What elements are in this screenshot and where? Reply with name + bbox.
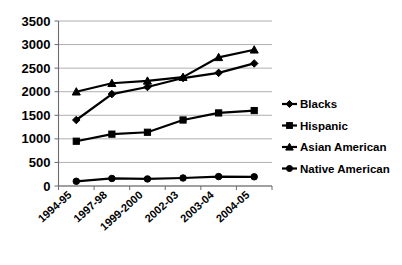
data-point-marker (180, 175, 187, 182)
data-point-marker (73, 178, 80, 185)
data-point-marker (144, 129, 150, 135)
legend-item-label: Hispanic (300, 120, 349, 132)
data-point-marker (109, 131, 115, 137)
legend-item-label: Asian American (300, 141, 387, 153)
chart-background (0, 0, 402, 265)
data-point-marker (287, 123, 293, 129)
data-point-marker (144, 176, 151, 183)
chart-canvas: 0500100015002000250030003500 1994-951997… (0, 0, 402, 265)
data-point-marker (216, 110, 222, 116)
data-point-marker (73, 138, 79, 144)
legend-item-label: Blacks (300, 98, 337, 110)
data-point-marker (180, 117, 186, 123)
y-tick-label: 1000 (22, 131, 51, 146)
y-tick-label: 3000 (22, 37, 51, 52)
data-point-marker (251, 107, 257, 113)
line-chart: 0500100015002000250030003500 1994-951997… (0, 0, 402, 265)
y-tick-label: 3500 (22, 14, 51, 29)
y-tick-label: 0 (43, 179, 50, 194)
data-point-marker (286, 165, 292, 171)
y-tick-label: 2000 (22, 84, 51, 99)
legend-item-label: Native American (300, 163, 390, 175)
data-point-marker (215, 173, 222, 180)
data-point-marker (109, 175, 116, 182)
data-point-marker (251, 174, 258, 181)
y-tick-label: 1500 (22, 108, 51, 123)
y-tick-label: 2500 (22, 61, 51, 76)
y-tick-label: 500 (29, 155, 51, 170)
